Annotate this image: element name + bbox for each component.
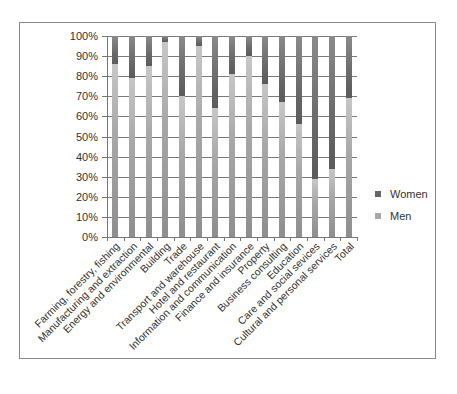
x-tick xyxy=(274,237,275,241)
x-tick xyxy=(357,237,358,241)
bar-segment-men xyxy=(246,56,252,237)
y-tick-label: 80% xyxy=(50,70,98,82)
x-tick xyxy=(190,237,191,241)
y-tick-label: 40% xyxy=(50,151,98,163)
x-tick xyxy=(174,237,175,241)
bar-segment-women xyxy=(196,36,202,46)
stacked-bar xyxy=(329,36,335,237)
x-tick xyxy=(307,237,308,241)
bar-segment-men xyxy=(279,102,285,237)
x-tick xyxy=(224,237,225,241)
x-tick xyxy=(157,237,158,241)
x-tick xyxy=(240,237,241,241)
men-swatch-icon xyxy=(375,213,381,219)
x-tick xyxy=(290,237,291,241)
legend: Women Men xyxy=(375,183,428,227)
x-tick xyxy=(324,237,325,241)
bar-segment-women xyxy=(246,36,252,56)
bar-segment-women xyxy=(146,36,152,66)
bar-segment-women xyxy=(312,36,318,179)
stacked-bar xyxy=(246,36,252,237)
stacked-bar xyxy=(129,36,135,237)
legend-label-men: Men xyxy=(390,210,411,222)
bar-segment-men xyxy=(129,78,135,237)
bar-segment-men xyxy=(146,66,152,237)
stacked-bar xyxy=(212,36,218,237)
bar-segment-men xyxy=(329,169,335,237)
bar-segment-men xyxy=(346,98,352,237)
bar-segment-men xyxy=(179,96,185,237)
legend-item-men: Men xyxy=(375,205,428,227)
x-tick xyxy=(207,237,208,241)
bar-segment-women xyxy=(229,36,235,74)
y-axis-line xyxy=(107,36,108,238)
stacked-bar xyxy=(296,36,302,237)
bar-segment-women xyxy=(279,36,285,102)
bar-segment-men xyxy=(162,42,168,237)
stacked-bar xyxy=(346,36,352,237)
stacked-bar xyxy=(312,36,318,237)
y-tick-label: 0% xyxy=(50,231,98,243)
women-swatch-icon xyxy=(375,191,381,197)
stacked-bar xyxy=(196,36,202,237)
stacked-bar xyxy=(262,36,268,237)
y-tick-label: 70% xyxy=(50,90,98,102)
stacked-bar xyxy=(146,36,152,237)
bar-segment-women xyxy=(346,36,352,98)
stacked-bar xyxy=(162,36,168,237)
x-axis-line xyxy=(107,237,358,238)
x-tick xyxy=(124,237,125,241)
stacked-bar xyxy=(179,36,185,237)
y-tick-label: 60% xyxy=(50,110,98,122)
bar-segment-men xyxy=(229,74,235,237)
bar-segment-men xyxy=(112,64,118,237)
y-tick-label: 10% xyxy=(50,211,98,223)
bar-segment-women xyxy=(179,36,185,96)
stacked-bar xyxy=(229,36,235,237)
x-tick xyxy=(107,237,108,241)
x-tick xyxy=(140,237,141,241)
y-tick-label: 20% xyxy=(50,191,98,203)
legend-item-women: Women xyxy=(375,183,428,205)
y-tick-label: 30% xyxy=(50,171,98,183)
bar-segment-women xyxy=(262,36,268,84)
bar-segment-women xyxy=(296,36,302,124)
y-tick-label: 50% xyxy=(50,131,98,143)
bar-segment-women xyxy=(129,36,135,78)
y-tick-label: 90% xyxy=(50,50,98,62)
legend-label-women: Women xyxy=(390,188,428,200)
bar-segment-men xyxy=(212,108,218,237)
y-tick-label: 100% xyxy=(50,30,98,42)
bar-segment-men xyxy=(312,179,318,237)
bar-segment-men xyxy=(196,46,202,237)
bar-segment-men xyxy=(296,124,302,237)
stacked-bar xyxy=(279,36,285,237)
x-tick xyxy=(340,237,341,241)
x-tick xyxy=(257,237,258,241)
bar-segment-men xyxy=(262,84,268,237)
bar-segment-women xyxy=(329,36,335,169)
stacked-bar xyxy=(112,36,118,237)
bar-segment-women xyxy=(212,36,218,108)
bar-segment-women xyxy=(112,36,118,64)
